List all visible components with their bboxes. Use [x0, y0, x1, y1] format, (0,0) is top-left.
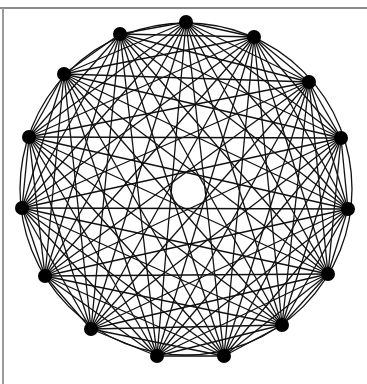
- graph-node: [334, 131, 348, 145]
- edge: [45, 37, 254, 276]
- graph-node: [341, 202, 355, 216]
- graph-node: [217, 349, 231, 363]
- complete-graph-diagram: [0, 0, 367, 384]
- edges: [22, 22, 348, 356]
- graph-node: [275, 318, 289, 332]
- edge: [157, 22, 186, 356]
- edge: [45, 274, 328, 276]
- graph-node: [150, 349, 164, 363]
- edge: [120, 22, 186, 34]
- graph-node: [15, 201, 29, 215]
- graph-node: [179, 15, 193, 29]
- edge: [29, 137, 341, 138]
- edge: [29, 22, 186, 137]
- graph-node: [113, 27, 127, 41]
- edge: [282, 274, 328, 325]
- graph-node: [84, 322, 98, 336]
- graph-node: [247, 30, 261, 44]
- graph-node: [302, 75, 316, 89]
- graph-node: [22, 130, 36, 144]
- edge: [64, 74, 309, 82]
- graph-node: [321, 267, 335, 281]
- edge: [186, 22, 328, 274]
- edge: [282, 209, 348, 325]
- graph-node: [57, 67, 71, 81]
- edge: [224, 209, 348, 356]
- graph-node: [38, 269, 52, 283]
- edge: [22, 22, 186, 208]
